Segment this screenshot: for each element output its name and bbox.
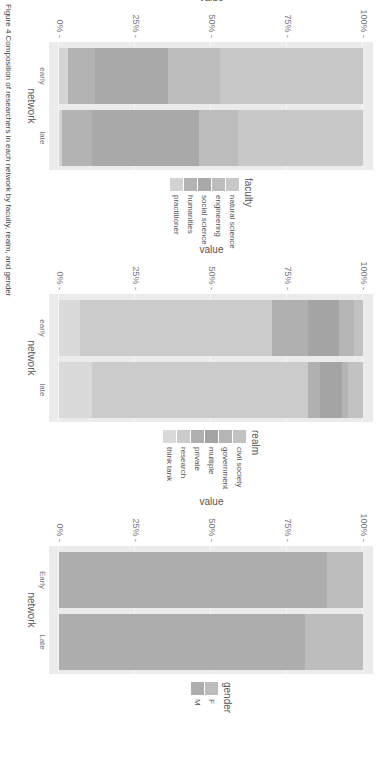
y-tick-label: 0% - bbox=[55, 256, 65, 290]
bar-segment bbox=[59, 48, 68, 104]
legend-swatch bbox=[192, 430, 205, 443]
legend-label: natural science bbox=[229, 195, 238, 249]
legend-item: government bbox=[219, 430, 233, 489]
realm-chart: 0% -25% -50% -75% -100% -valueearlylaten… bbox=[0, 252, 387, 502]
legend-item: M bbox=[191, 682, 205, 713]
legend: genderFM bbox=[191, 682, 233, 713]
bar-segment bbox=[68, 48, 95, 104]
legend-item: think tank bbox=[163, 430, 177, 489]
legend-item: F bbox=[205, 682, 219, 713]
bar-late bbox=[59, 362, 363, 418]
bar-segment bbox=[80, 300, 272, 356]
legend-swatch bbox=[234, 430, 247, 443]
bar-segment bbox=[320, 362, 341, 418]
y-tick-label: 25% - bbox=[131, 508, 141, 542]
bar-late bbox=[59, 614, 363, 670]
legend-label: think tank bbox=[166, 447, 175, 481]
legend-item: civil society bbox=[233, 430, 247, 489]
y-tick-label: 100% - bbox=[359, 256, 369, 290]
figure-canvas: 0% -25% -50% -75% -100% -valueearlylaten… bbox=[0, 0, 387, 759]
legend-label: social science bbox=[201, 195, 210, 245]
x-tick-label: late bbox=[38, 118, 47, 158]
y-tick-label: 100% - bbox=[359, 4, 369, 38]
legend-title: faculty bbox=[243, 178, 254, 249]
legend-item: multiple bbox=[205, 430, 219, 489]
bar-segment bbox=[354, 300, 363, 356]
y-tick-label: 50% - bbox=[207, 508, 217, 542]
x-tick-label: early bbox=[38, 308, 47, 348]
y-tick-label: 75% - bbox=[283, 4, 293, 38]
y-axis-label: value bbox=[200, 244, 224, 255]
y-axis-label: value bbox=[200, 496, 224, 507]
x-tick-label: early bbox=[38, 56, 47, 96]
bar-early bbox=[59, 552, 363, 608]
faculty-chart: 0% -25% -50% -75% -100% -valueearlylaten… bbox=[0, 0, 387, 250]
legend-label: M bbox=[194, 699, 203, 706]
bar-segment bbox=[220, 48, 363, 104]
legend-swatch bbox=[185, 178, 198, 191]
legend-item: engineering bbox=[212, 178, 226, 249]
x-axis-label: network bbox=[26, 298, 37, 418]
bar-early bbox=[59, 300, 363, 356]
legend-label: private bbox=[194, 447, 203, 471]
y-tick-label: 0% - bbox=[55, 4, 65, 38]
legend-label: F bbox=[208, 699, 217, 704]
y-tick-label: 25% - bbox=[131, 4, 141, 38]
bar-segment bbox=[272, 300, 308, 356]
bar-segment bbox=[348, 362, 363, 418]
y-tick-label: 75% - bbox=[283, 256, 293, 290]
legend-label: engineering bbox=[215, 195, 224, 237]
legend-label: practitioner bbox=[173, 195, 182, 235]
legend-item: humanities bbox=[184, 178, 198, 249]
y-tick-label: 0% - bbox=[55, 508, 65, 542]
legend-swatch bbox=[192, 682, 205, 695]
legend: realmcivil societygovernmentmultiplepriv… bbox=[163, 430, 261, 489]
legend-swatch bbox=[206, 430, 219, 443]
legend-label: civil society bbox=[236, 447, 245, 487]
x-tick-label: late bbox=[38, 370, 47, 410]
bar-segment bbox=[62, 110, 92, 166]
x-tick-label: Early bbox=[38, 560, 47, 600]
x-axis-label: network bbox=[26, 550, 37, 670]
y-tick-label: 50% - bbox=[207, 256, 217, 290]
y-tick-label: 75% - bbox=[283, 508, 293, 542]
bar-early bbox=[59, 48, 363, 104]
legend-swatch bbox=[178, 430, 191, 443]
legend-item: research bbox=[177, 430, 191, 489]
y-tick-label: 100% - bbox=[359, 508, 369, 542]
y-axis-label: value bbox=[200, 0, 224, 3]
legend-label: government bbox=[222, 447, 231, 489]
legend-swatch bbox=[199, 178, 212, 191]
legend-title: realm bbox=[250, 430, 261, 489]
x-axis-label: network bbox=[26, 46, 37, 166]
bar-segment bbox=[305, 614, 363, 670]
legend-item: practitioner bbox=[170, 178, 184, 249]
bar-segment bbox=[238, 110, 363, 166]
bar-segment bbox=[339, 300, 354, 356]
y-tick-label: 25% - bbox=[131, 256, 141, 290]
y-tick-label: 50% - bbox=[207, 4, 217, 38]
legend-swatch bbox=[171, 178, 184, 191]
legend-swatch bbox=[227, 178, 240, 191]
bar-segment bbox=[92, 110, 198, 166]
bar-segment bbox=[95, 48, 168, 104]
bar-segment bbox=[59, 300, 80, 356]
legend-item: natural science bbox=[226, 178, 240, 249]
bar-segment bbox=[342, 362, 348, 418]
bar-segment bbox=[59, 614, 305, 670]
legend-swatch bbox=[164, 430, 177, 443]
bar-segment bbox=[327, 552, 363, 608]
legend-label: research bbox=[180, 447, 189, 478]
bar-segment bbox=[92, 362, 308, 418]
legend-item: social science bbox=[198, 178, 212, 249]
legend-swatch bbox=[206, 682, 219, 695]
legend-item: private bbox=[191, 430, 205, 489]
bar-segment bbox=[59, 552, 327, 608]
gender-chart: 0% -25% -50% -75% -100% -valueEarlyLaten… bbox=[0, 504, 387, 754]
bar-segment bbox=[308, 362, 320, 418]
legend-title: gender bbox=[222, 682, 233, 713]
x-tick-label: Late bbox=[38, 622, 47, 662]
legend-swatch bbox=[213, 178, 226, 191]
figure-caption: Figure 4 Composition of researchers in e… bbox=[4, 4, 13, 296]
bar-segment bbox=[308, 300, 338, 356]
